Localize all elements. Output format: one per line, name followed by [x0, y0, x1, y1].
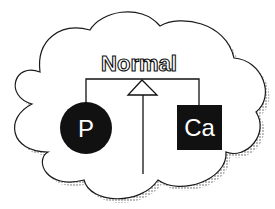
node-ca: Ca — [177, 105, 222, 150]
diagram-canvas: Normal P Ca — [0, 0, 275, 209]
cloud-container — [15, 12, 266, 199]
title-normal: Normal — [101, 51, 177, 76]
node-p: P — [60, 102, 112, 154]
node-p-label: P — [78, 115, 94, 142]
node-ca-label: Ca — [184, 114, 215, 141]
